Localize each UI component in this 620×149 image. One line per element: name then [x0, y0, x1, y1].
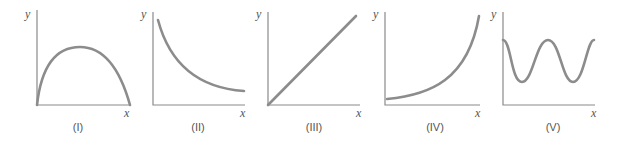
panel-caption: (II) — [191, 121, 204, 133]
x-axis-label: x — [355, 106, 362, 120]
y-axis — [153, 12, 245, 105]
graph-panel-2: y x (II) — [140, 7, 246, 133]
linear-line — [268, 16, 356, 105]
x-axis-label: x — [239, 106, 246, 120]
y-axis-label: y — [372, 7, 379, 21]
panel-caption: (V) — [546, 121, 561, 133]
x-axis-label: x — [123, 106, 130, 120]
sinusoid-curve — [503, 40, 594, 82]
growth-curve — [387, 16, 479, 99]
graph-panel-3: y x (III) — [255, 7, 362, 133]
decay-curve — [158, 20, 244, 91]
y-axis-label: y — [24, 7, 31, 21]
y-axis — [37, 10, 130, 105]
y-axis-label: y — [490, 7, 497, 21]
graph-panel-5: y x (V) — [490, 7, 597, 133]
y-axis — [385, 12, 480, 105]
panel-caption: (III) — [306, 121, 323, 133]
y-axis — [503, 12, 595, 105]
x-axis-label: x — [474, 106, 481, 120]
x-axis-label: x — [590, 106, 597, 120]
y-axis-label: y — [140, 7, 147, 21]
graph-panel-1: y x (I) — [24, 7, 130, 133]
panel-caption: (IV) — [426, 121, 444, 133]
graphs-figure: y x (I) y x (II) y x (III) y x (IV) y x … — [0, 0, 620, 149]
graph-panel-4: y x (IV) — [372, 7, 481, 133]
parabola-curve — [37, 47, 130, 105]
panel-caption: (I) — [73, 121, 83, 133]
y-axis-label: y — [255, 7, 262, 21]
